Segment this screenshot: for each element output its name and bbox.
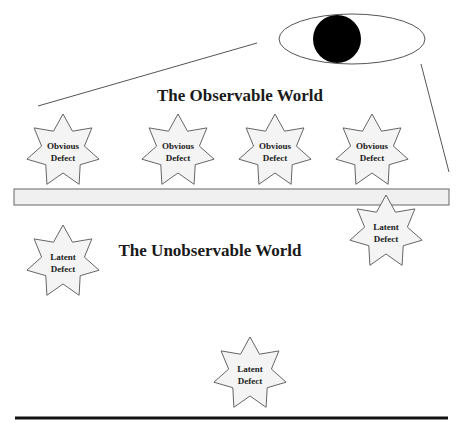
eye-pupil xyxy=(313,15,361,63)
defect-label: Latent xyxy=(237,364,263,374)
defect-label: Obvious xyxy=(356,141,389,151)
defect-label: Obvious xyxy=(162,141,195,151)
obvious-defect-star: ObviousDefect xyxy=(239,114,311,184)
defect-label: Latent xyxy=(50,252,76,262)
defect-label: Defect xyxy=(166,153,190,163)
obvious-defect-star: ObviousDefect xyxy=(27,114,99,184)
sight-line-right xyxy=(421,64,449,172)
obvious-defect-star: ObviousDefect xyxy=(336,114,408,184)
defect-label: Obvious xyxy=(259,141,292,151)
defect-label: Defect xyxy=(374,234,398,244)
obvious-defect-star: ObviousDefect xyxy=(142,114,214,184)
latent-defect-star: LatentDefect xyxy=(350,195,422,265)
defect-visibility-diagram: The Observable World The Unobservable Wo… xyxy=(0,0,460,426)
unobservable-world-title: The Unobservable World xyxy=(119,241,302,260)
latent-defect-star: LatentDefect xyxy=(214,337,286,407)
defect-label: Defect xyxy=(51,264,75,274)
observable-world-title: The Observable World xyxy=(157,86,323,105)
defect-label: Defect xyxy=(263,153,287,163)
eye-icon xyxy=(279,14,425,64)
defect-label: Obvious xyxy=(47,141,80,151)
latent-defect-star: LatentDefect xyxy=(27,225,99,295)
defect-label: Latent xyxy=(373,222,399,232)
defect-label: Defect xyxy=(360,153,384,163)
defect-label: Defect xyxy=(51,153,75,163)
defect-stars: ObviousDefectObviousDefectObviousDefectO… xyxy=(27,114,422,407)
defect-label: Defect xyxy=(238,376,262,386)
